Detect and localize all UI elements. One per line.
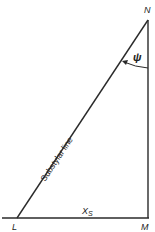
substylar-line	[17, 20, 148, 218]
vertex-label-L: L	[12, 222, 17, 232]
vertex-label-M: M	[141, 222, 149, 232]
base-label: XS	[81, 206, 93, 217]
base-label-subscript: S	[88, 210, 93, 217]
vertex-label-N: N	[144, 5, 151, 15]
angle-label-psi: ψ	[133, 51, 142, 63]
arrowhead-icon	[122, 60, 128, 65]
hypotenuse-label: Substylar line	[38, 135, 75, 183]
triangle-diagram: N L M ψ Substylar line XS	[0, 0, 155, 232]
